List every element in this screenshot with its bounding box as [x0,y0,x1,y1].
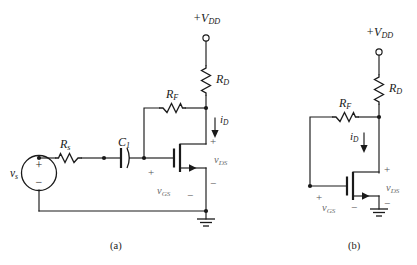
label-vs-subscript-a: s [15,172,18,181]
circuit-figure: +VDD RD RF Rs C1 vs + − iD vDS + − vGS +… [0,0,417,265]
vgs-plus-sign-b: + [316,192,322,203]
resistor-rf-symbol-a [159,104,186,113]
vgs-minus-sign-b: − [351,202,357,213]
resistor-rd-symbol-a [202,65,211,96]
wire-rf-left-down-a [144,108,159,158]
resistor-rs-symbol-a [55,154,82,163]
label-id-subscript-b: D [353,135,358,144]
label-rd-a: RD [216,73,229,87]
vds-plus-sign-b: + [384,164,390,175]
caption-a: (a) [110,240,122,251]
resistor-rf-symbol-b [332,113,359,122]
label-vgs-a: vGS [157,186,170,198]
label-vgs-subscript-a: GS [162,190,171,198]
label-c1-a: C1 [118,136,130,150]
vds-minus-sign-b: − [384,198,390,209]
vds-minus-sign-a: − [210,178,216,189]
label-rf-b: RF [339,97,351,111]
label-rs-a: Rs [60,138,71,152]
label-rf-subscript-b: F [346,102,351,111]
label-vdd-sign-b: + [366,25,374,39]
wire-rf-left-down-b [310,117,332,186]
vgs-plus-sign-a: + [148,167,154,178]
label-vds-subscript-b: DS [391,187,400,195]
label-vgs-subscript-b: GS [327,207,336,215]
capacitor-c1-plate-right-a [127,148,129,168]
label-rs-subscript-a: s [67,143,70,152]
source-plus-sign-a: + [36,159,43,171]
label-c1-subscript-a: 1 [126,141,130,150]
label-rd-subscript-b: D [396,87,402,96]
label-id-subscript-a: D [223,118,228,127]
label-vs-a: vs [10,168,18,181]
mosfet-source-arrow-a [189,164,197,172]
label-vdd-sign-a: + [193,11,201,25]
label-vdd-subscript-b: DD [381,31,393,40]
source-minus-sign-a: − [36,176,43,188]
mosfet-source-arrow-b [362,192,370,200]
vgs-minus-sign-a: − [187,190,193,201]
label-vds-a: vDS [214,155,227,167]
label-rd-subscript-a: D [223,78,229,87]
label-vdd-subscript-a: DD [208,17,220,26]
label-c1-symbol-a: C [118,135,126,149]
label-rf-subscript-a: F [173,93,178,102]
label-vdd-b: +VDD [366,26,393,40]
label-vds-b: vDS [386,183,399,195]
vds-plus-sign-a: + [210,136,216,147]
caption-b: (b) [348,240,360,251]
label-id-a: iD [220,114,228,127]
label-id-b: iD [350,131,358,144]
label-rf-a: RF [166,88,178,102]
vdd-terminal-b [376,49,382,55]
label-vdd-a: +VDD [193,12,220,26]
label-vds-subscript-a: DS [219,159,228,167]
label-vgs-b: vGS [322,203,335,215]
resistor-rd-symbol-b [375,74,384,105]
current-id-arrow-b [360,145,367,153]
label-rd-b: RD [389,82,402,96]
vdd-terminal-a [203,35,209,41]
